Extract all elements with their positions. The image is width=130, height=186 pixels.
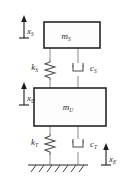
ground-support	[28, 165, 88, 172]
suspension-damper: cS	[72, 63, 97, 74]
tire-spring: kT	[31, 134, 55, 155]
upper-mass-block: mS	[44, 22, 100, 48]
ground-hatching	[31, 165, 84, 172]
upper-displacement-arrowhead	[21, 15, 27, 22]
suspension-model-diagram: mS kS cS mU kT cT	[0, 0, 130, 186]
suspension-damper-label: cS	[90, 63, 97, 74]
suspension-spring: kS	[31, 60, 55, 80]
suspension-spring-label: kS	[31, 62, 38, 73]
tire-damper-cylinder	[73, 139, 83, 147]
diagram-canvas: mS kS cS mU kT cT	[0, 0, 130, 186]
ground-displacement-arrowhead	[103, 143, 109, 150]
lower-displacement-arrowhead	[21, 82, 27, 89]
upper-mass-rect	[44, 22, 100, 48]
lower-mass-block: mU	[34, 88, 106, 126]
tire-spring-label: kT	[31, 137, 39, 148]
ground-displacement-indicator: xE	[101, 143, 117, 165]
upper-displacement-label: xS	[26, 26, 34, 37]
suspension-spring-coil	[45, 60, 55, 80]
ground-displacement-label: xE	[108, 154, 117, 165]
tire-damper-label: cT	[90, 139, 98, 150]
suspension-damper-cylinder	[73, 63, 83, 71]
upper-displacement-indicator: xS	[19, 15, 34, 38]
tire-damper: cT	[72, 139, 98, 150]
tire-spring-coil	[45, 134, 55, 155]
